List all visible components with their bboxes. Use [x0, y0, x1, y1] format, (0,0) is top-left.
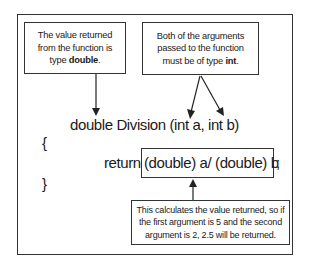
note-text: passed to the function [157, 42, 244, 55]
arrow-up-icon [189, 179, 197, 201]
arrow-icon [201, 76, 224, 116]
note-text: must be of type [162, 56, 225, 66]
note-text: type [50, 55, 69, 65]
note-text: the first argument is 5 and the second [137, 216, 285, 228]
note-keyword: double [69, 55, 98, 65]
open-brace: { [42, 134, 47, 152]
return-expression: (double) a/ (double) b [144, 154, 279, 172]
note-text: This calculates the value returned, so i… [137, 204, 285, 216]
function-signature: double Division (int a, int b) [70, 116, 239, 134]
note-text: argument is 2, 2.5 will be returned. [137, 229, 285, 241]
arguments-note: Both of the arguments passed to the func… [142, 22, 259, 75]
return-keyword: return [104, 154, 141, 172]
arrow-icon [92, 74, 100, 116]
note-text: . [98, 55, 100, 65]
arrow-icon [187, 76, 200, 119]
note-text: The value returned [38, 29, 113, 42]
semicolon: ; [276, 154, 280, 172]
note-text: Both of the arguments [157, 30, 244, 43]
note-text: . [236, 56, 238, 66]
note-keyword: int [225, 56, 236, 66]
close-brace: } [42, 175, 47, 193]
calculation-note: This calculates the value returned, so i… [131, 200, 290, 245]
return-type-note: The value returned from the function is … [24, 22, 126, 74]
note-text: from the function is [38, 42, 113, 55]
